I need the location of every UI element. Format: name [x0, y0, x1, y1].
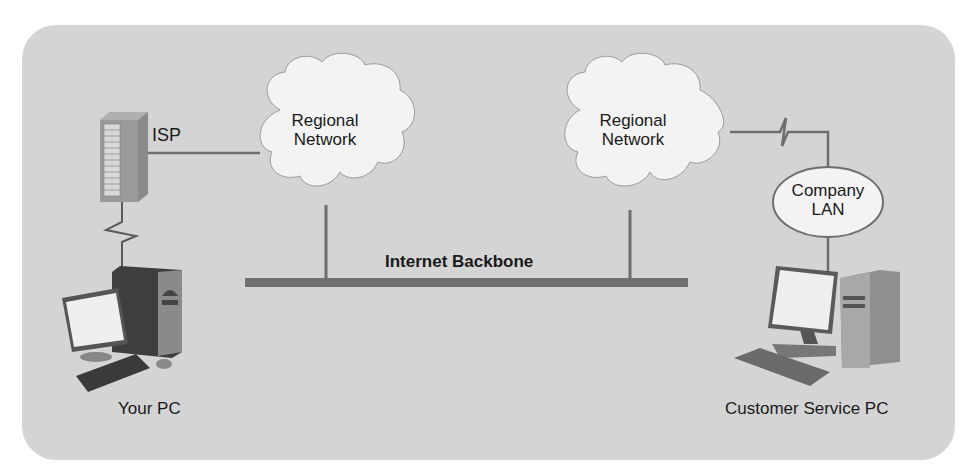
dialup-link-zigzag: [106, 200, 136, 270]
customer-service-pc-label: Customer Service PC: [725, 400, 888, 419]
isp-label: ISP: [152, 126, 181, 146]
regional-network-1-line2: Network: [280, 131, 370, 150]
internet-backbone-label: Internet Backbone: [385, 253, 533, 272]
wan-link-zigzag: [730, 118, 828, 168]
regional-network-1-label: Regional Network: [280, 112, 370, 149]
company-lan-line2: LAN: [778, 201, 878, 220]
regional-network-2-line2: Network: [588, 131, 678, 150]
company-lan-label: Company LAN: [778, 182, 878, 219]
internet-backbone-bar: [245, 278, 688, 287]
customer-service-pc-icon: [734, 266, 900, 386]
regional-network-1-line1: Regional: [280, 112, 370, 131]
your-pc-label: Your PC: [118, 400, 181, 419]
regional-network-2-line1: Regional: [588, 112, 678, 131]
company-lan-line1: Company: [778, 182, 878, 201]
regional-network-2-label: Regional Network: [588, 112, 678, 149]
your-pc-icon: [62, 266, 182, 392]
isp-server-icon: [100, 112, 148, 202]
